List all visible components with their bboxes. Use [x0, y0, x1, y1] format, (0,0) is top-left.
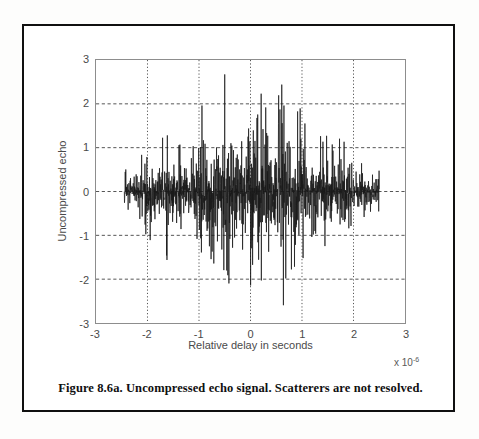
scanned-page-background: 3210-1-2-3 -3-2-10123 Uncompressed echo …	[0, 0, 479, 439]
echo-signal-trace	[96, 60, 405, 323]
y-axis-title: Uncompressed echo	[56, 141, 68, 242]
x-axis-title: Relative delay in seconds	[95, 339, 406, 351]
x-axis-exponent-label: x 10-6	[394, 356, 419, 368]
y-tick-label: 2	[69, 97, 89, 109]
figure-frame: 3210-1-2-3 -3-2-10123 Uncompressed echo …	[22, 24, 455, 412]
x-axis-exponent-power: -6	[413, 356, 419, 363]
y-tick-label: 3	[69, 53, 89, 65]
plot-axes-box	[95, 59, 406, 324]
y-tick-label: 1	[69, 141, 89, 153]
y-tick-label: 0	[69, 186, 89, 198]
y-tick-label: -3	[69, 318, 89, 330]
figure-caption: Figure 8.6a. Uncompressed echo signal. S…	[24, 381, 457, 396]
x-axis-exponent-prefix: x 10	[394, 357, 413, 368]
y-tick-label: -2	[69, 274, 89, 286]
y-tick-label: -1	[69, 230, 89, 242]
